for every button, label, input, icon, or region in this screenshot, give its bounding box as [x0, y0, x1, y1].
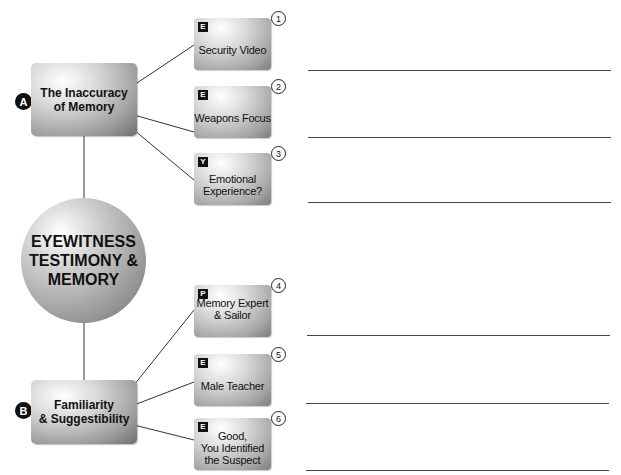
- card-6-label-line-1: Good,: [201, 430, 264, 442]
- card-5-label: Male Teacher: [201, 380, 264, 392]
- card-6-label-line-2: You Identified: [201, 442, 264, 454]
- answer-line-6[interactable]: [306, 470, 609, 471]
- card-2-weapons-focus: E Weapons Focus: [194, 86, 271, 138]
- card-3-number-badge: 3: [271, 146, 286, 161]
- card-6-number-badge: 6: [271, 411, 286, 426]
- card-3-tag: Y: [198, 157, 208, 167]
- card-4-label-line-1: Memory Expert: [197, 297, 269, 309]
- card-2-number-badge: 2: [271, 79, 286, 94]
- card-2-label: Weapons Focus: [194, 112, 271, 124]
- center-label-line-1: EYEWITNESS: [29, 232, 138, 251]
- topic-b-label-line-2: & Suggestibility: [39, 412, 130, 426]
- card-1-number-badge: 1: [271, 11, 286, 26]
- card-5-tag: E: [198, 358, 208, 368]
- answer-line-1[interactable]: [308, 70, 611, 71]
- card-4-label-line-2: & Sailor: [197, 309, 269, 321]
- card-4-memory-expert-sailor: P Memory Expert & Sailor: [194, 285, 271, 337]
- card-3-label-line-1: Emotional: [203, 173, 262, 185]
- topic-a-label-line-1: The Inaccuracy: [40, 86, 127, 100]
- card-3-label-line-2: Experience?: [203, 185, 262, 197]
- answer-line-3[interactable]: [308, 202, 611, 203]
- card-5-male-teacher: E Male Teacher: [194, 354, 271, 406]
- card-6-good-you-identified-suspect: E Good, You Identified the Suspect: [194, 418, 271, 470]
- card-1-tag: E: [198, 22, 208, 32]
- topic-a-box: The Inaccuracy of Memory: [31, 63, 137, 136]
- card-2-tag: E: [198, 90, 208, 100]
- center-sphere: EYEWITNESS TESTIMONY & MEMORY: [21, 198, 146, 323]
- card-6-label-line-3: the Suspect: [201, 454, 264, 466]
- card-1-label: Security Video: [199, 44, 267, 56]
- card-3-emotional-experience: Y Emotional Experience?: [194, 153, 271, 205]
- center-label-line-2: TESTIMONY &: [29, 251, 138, 270]
- answer-line-4[interactable]: [307, 335, 610, 336]
- topic-a-letter-badge: A: [15, 93, 32, 110]
- topic-b-letter-badge: B: [15, 402, 32, 419]
- answer-line-5[interactable]: [306, 403, 609, 404]
- card-1-security-video: E Security Video: [194, 18, 271, 70]
- answer-line-2[interactable]: [308, 137, 611, 138]
- center-label-line-3: MEMORY: [29, 270, 138, 289]
- card-4-number-badge: 4: [271, 278, 286, 293]
- topic-b-box: Familiarity & Suggestibility: [31, 380, 137, 444]
- topic-a-label-line-2: of Memory: [40, 100, 127, 114]
- topic-b-label-line-1: Familiarity: [39, 398, 130, 412]
- card-5-number-badge: 5: [271, 347, 286, 362]
